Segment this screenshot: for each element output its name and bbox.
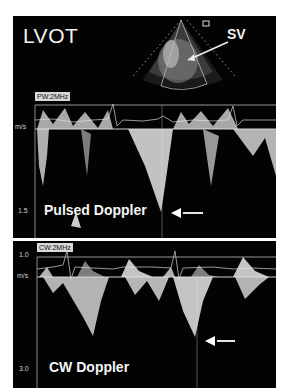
pw-unit-label: m/s [15, 123, 26, 130]
pw-scale-label: 1.5 [18, 207, 28, 214]
cw-unit-label: m/s [17, 272, 28, 279]
view-label: LVOT [23, 24, 78, 48]
echo-sector-image [133, 20, 235, 90]
pw-mode-label: PW:2MHz [35, 92, 70, 101]
pulsed-doppler-caption: Pulsed Doppler [44, 202, 147, 218]
sample-volume-label: SV [227, 26, 246, 42]
cw-scale-label: 3.0 [19, 365, 29, 372]
cw-doppler-caption: CW Doppler [49, 359, 129, 375]
pulsed-doppler-panel: LVOT SV PW:2MHz m/s 1.5 Pulsed Doppler [13, 16, 276, 238]
cw-scale-top-label: 1.0 [19, 251, 29, 258]
cw-doppler-panel: CW:2MHz 1.0 m/s 3.0 CW Doppler [13, 241, 276, 388]
cw-mode-label: CW:2MHz [37, 243, 73, 252]
